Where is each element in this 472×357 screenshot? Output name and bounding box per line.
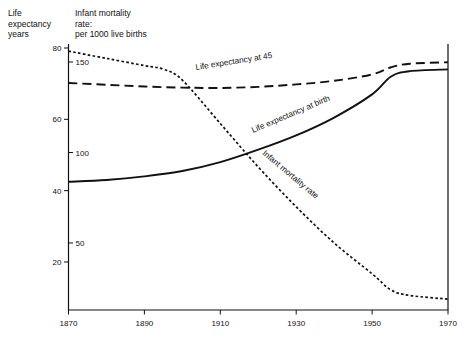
- y-tick-label: 80: [53, 44, 62, 53]
- series-line-dashed: [69, 62, 449, 88]
- y-tick-label: 20: [53, 258, 62, 267]
- chart-canvas: 1870189019101930195019708060402015010050…: [0, 0, 472, 357]
- chart-axes: [69, 44, 449, 310]
- y2-tick-label: 150: [76, 58, 90, 67]
- series-label-1: Life expectancy at 45: [195, 51, 273, 72]
- x-tick-label: 1950: [363, 319, 381, 328]
- x-tick-label: 1930: [287, 319, 305, 328]
- series-label-2: Life expectancy at birth: [250, 93, 331, 134]
- chart-series-labels: Life expectancy at 45Life expectancy at …: [195, 51, 332, 201]
- series-line-dotted: [69, 51, 449, 299]
- x-tick-label: 1890: [136, 319, 154, 328]
- series-label-3: Infant mortality rate: [261, 149, 321, 201]
- x-tick-label: 1870: [60, 319, 78, 328]
- y-tick-label: 40: [53, 187, 62, 196]
- chart-figure: Life expectancy years Infant mortality r…: [0, 0, 472, 357]
- x-tick-label: 1910: [211, 319, 229, 328]
- y2-tick-label: 100: [76, 149, 90, 158]
- chart-series: [69, 51, 449, 299]
- x-tick-label: 1970: [439, 319, 457, 328]
- y-tick-label: 60: [53, 115, 62, 124]
- y2-tick-label: 50: [76, 239, 85, 248]
- plot-frame: [69, 44, 449, 310]
